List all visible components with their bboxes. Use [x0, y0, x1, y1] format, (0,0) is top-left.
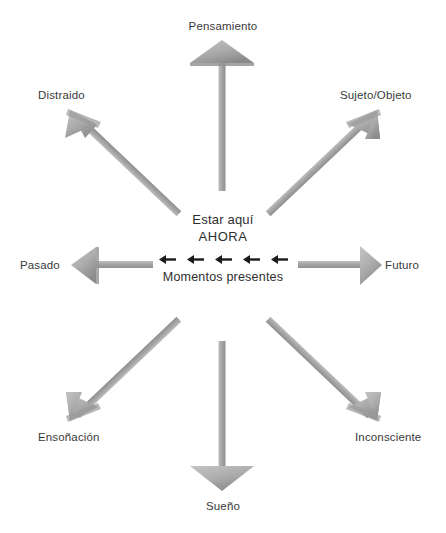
- node-label-inconsciente: Inconsciente: [355, 431, 421, 444]
- arrow-futuro: [298, 246, 382, 285]
- arrow-pasado: [71, 247, 153, 284]
- node-label-sujeto-objeto: Sujeto/Objeto: [340, 89, 412, 102]
- arrow-ensonacion: [66, 317, 181, 422]
- arrow-inconsciente: [266, 317, 381, 422]
- arrow-sujeto-objeto: [266, 109, 381, 216]
- radial-diagram: Pensamiento Sujeto/Objeto Futuro Inconsc…: [0, 0, 446, 533]
- node-label-pasado: Pasado: [20, 259, 60, 272]
- arrow-layer: [0, 0, 446, 533]
- node-label-distraido: Distraido: [38, 89, 85, 102]
- node-label-sueno: Sueño: [0, 500, 446, 513]
- arrow-sueno: [190, 341, 254, 491]
- node-label-ensonacion: Ensoñación: [38, 431, 100, 444]
- arrow-pensamiento: [190, 40, 254, 191]
- node-label-futuro: Futuro: [385, 259, 419, 272]
- node-label-pensamiento: Pensamiento: [0, 20, 446, 33]
- arrow-distraido: [65, 109, 181, 216]
